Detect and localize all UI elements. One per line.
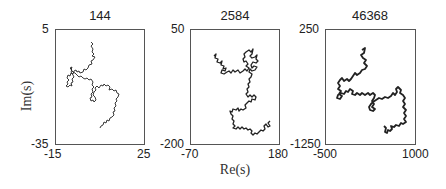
panel-2-frame [191, 30, 280, 145]
plots-canvas [0, 0, 446, 189]
panel-3-walk [337, 48, 406, 133]
panel-1-walk [66, 42, 119, 128]
panel-2-walk [214, 49, 270, 135]
